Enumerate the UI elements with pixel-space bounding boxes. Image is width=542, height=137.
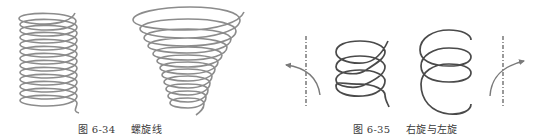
figure-caption: 图 6-34 螺旋线 [78,121,162,136]
right-hand-helix [336,41,389,107]
helix-illustrations [0,0,271,137]
figure-number: 图 6-35 [353,124,390,135]
conical-helix [133,7,244,115]
figure-title: 螺旋线 [131,124,162,135]
figure-6-35: 图 6-35 右旋与左旋 [271,0,542,137]
right-rotation-axis [490,36,524,107]
handedness-illustrations [271,0,542,137]
cylindrical-helix [19,13,79,113]
figure-6-34: 图 6-34 螺旋线 [0,0,271,137]
arrow-right-icon [490,61,524,96]
figure-number: 图 6-34 [78,124,115,135]
arrow-left-icon [286,65,320,95]
left-rotation-axis [286,36,320,107]
figure-caption: 图 6-35 右旋与左旋 [353,121,457,136]
left-hand-helix [420,30,471,114]
figure-title: 右旋与左旋 [406,124,458,135]
